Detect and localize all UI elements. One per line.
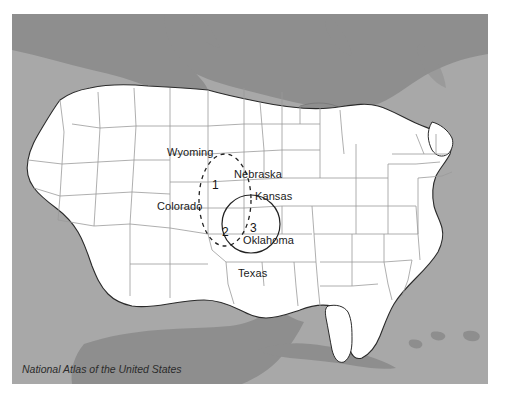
region-number-1: 1 <box>212 179 219 191</box>
state-label-texas: Texas <box>238 267 267 279</box>
state-label-wyoming: Wyoming <box>167 146 213 158</box>
region-number-2: 2 <box>222 226 229 238</box>
state-label-oklahoma: Oklahoma <box>243 234 294 246</box>
map-figure: Wyoming Nebraska Colorado Kansas Oklahom… <box>0 0 505 402</box>
state-label-colorado: Colorado <box>157 200 202 212</box>
us-map-graphic <box>12 14 488 384</box>
state-label-nebraska: Nebraska <box>234 168 282 180</box>
state-label-kansas: Kansas <box>255 190 292 202</box>
source-caption: National Atlas of the United States <box>22 363 182 375</box>
map-canvas: Wyoming Nebraska Colorado Kansas Oklahom… <box>12 14 488 384</box>
region-number-3: 3 <box>250 222 257 234</box>
